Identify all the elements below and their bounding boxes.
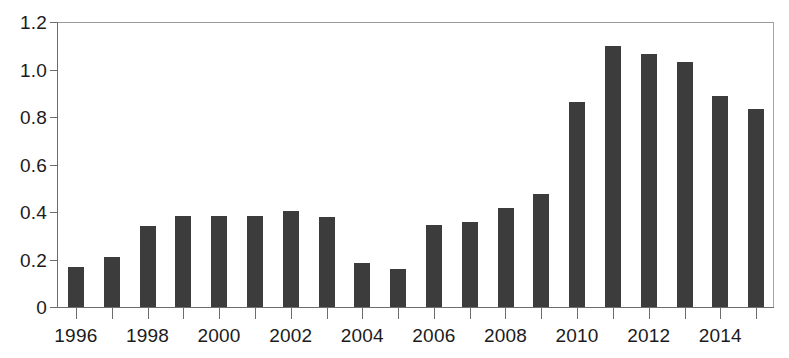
bar — [712, 96, 728, 307]
bar — [677, 62, 693, 307]
bar — [533, 194, 549, 307]
bar — [247, 216, 263, 307]
bar — [354, 263, 370, 307]
x-axis-tick-mark — [649, 308, 650, 319]
x-axis-tick-mark — [577, 308, 578, 319]
x-axis-tick-mark — [720, 308, 721, 319]
bar — [211, 216, 227, 307]
y-axis-tick-label: 0.2 — [0, 250, 47, 269]
y-axis-labels: 00.20.40.60.81.01.2 — [0, 0, 47, 358]
bar — [104, 257, 120, 307]
x-axis-tick-label: 2008 — [484, 325, 527, 346]
x-axis-tick-mark — [327, 308, 328, 319]
x-axis-tick-mark — [183, 308, 184, 319]
bar — [605, 46, 621, 307]
x-axis-tick-mark — [76, 308, 77, 319]
x-axis-tick-mark — [291, 308, 292, 319]
x-axis-tick-mark — [362, 308, 363, 319]
x-axis-tick-label: 2012 — [627, 325, 670, 346]
x-axis-tick-label: 2006 — [412, 325, 455, 346]
bar — [569, 102, 585, 307]
y-axis-tick-label: 1.2 — [0, 13, 47, 32]
x-axis-ticks-labels: 1996199820002002200420062008201020122014 — [0, 308, 789, 358]
bar — [641, 54, 657, 307]
x-axis-tick-mark — [541, 308, 542, 319]
x-axis-tick-mark — [112, 308, 113, 319]
x-axis-tick-label: 1998 — [126, 325, 169, 346]
bar — [140, 226, 156, 307]
bar — [68, 267, 84, 307]
x-axis-tick-label: 2010 — [556, 325, 599, 346]
x-axis-tick-mark — [613, 308, 614, 319]
bar — [283, 211, 299, 307]
y-axis-tick-label: 1.0 — [0, 60, 47, 79]
bar — [319, 217, 335, 307]
x-axis-tick-mark — [219, 308, 220, 319]
x-axis-tick-label: 1996 — [54, 325, 97, 346]
bar-chart: 00.20.40.60.81.01.2 19961998200020022004… — [0, 0, 789, 358]
bar — [748, 109, 764, 307]
x-axis-tick-mark — [255, 308, 256, 319]
x-axis-tick-label: 2014 — [699, 325, 742, 346]
x-axis-tick-label: 2002 — [269, 325, 312, 346]
x-axis-tick-mark — [470, 308, 471, 319]
y-axis-tick-label: 0.6 — [0, 155, 47, 174]
x-axis-tick-mark — [434, 308, 435, 319]
bar — [390, 269, 406, 307]
x-axis-tick-mark — [148, 308, 149, 319]
x-axis-tick-label: 2004 — [341, 325, 384, 346]
y-axis-tick-label: 0.8 — [0, 108, 47, 127]
bar — [462, 222, 478, 308]
y-axis-tick-label: 0.4 — [0, 203, 47, 222]
x-axis-tick-mark — [398, 308, 399, 319]
plot-area — [58, 22, 774, 307]
bar-series — [58, 22, 774, 307]
bar — [498, 208, 514, 307]
bar — [175, 216, 191, 307]
x-axis-tick-mark — [756, 308, 757, 319]
bar — [426, 225, 442, 307]
x-axis-tick-mark — [685, 308, 686, 319]
x-axis-tick-mark — [505, 308, 506, 319]
x-axis-tick-label: 2000 — [198, 325, 241, 346]
